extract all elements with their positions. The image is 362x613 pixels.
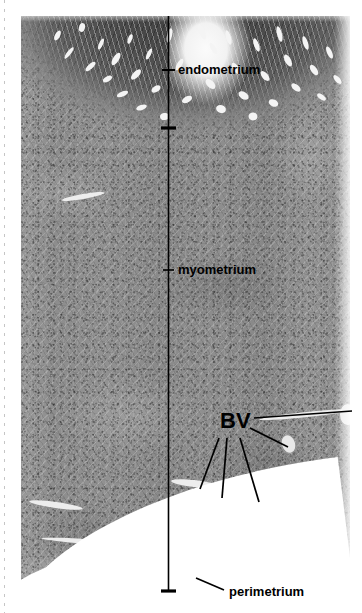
- scan-edge-artifact: [4, 0, 5, 613]
- histology-figure: endometrium myometrium BV perimetrium: [0, 0, 362, 613]
- micrograph-image: [21, 16, 350, 604]
- endometrial-glands: [21, 16, 350, 140]
- specimen-top-edge-fade: [21, 16, 350, 22]
- specimen-right-edge-fade: [334, 16, 350, 604]
